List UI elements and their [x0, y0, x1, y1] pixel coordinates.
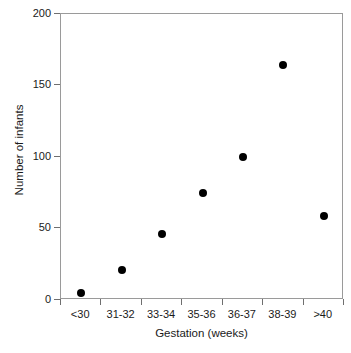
x-axis-tick-mark [141, 299, 142, 305]
x-axis-tick-label: 31-32 [107, 308, 135, 321]
y-axis-tick-label: 0 [45, 294, 51, 305]
data-point [158, 230, 166, 238]
plot-frame [60, 13, 343, 299]
plot-area [61, 14, 342, 298]
data-point [118, 266, 126, 274]
x-axis-tick-mark [60, 299, 61, 305]
x-axis-ticks [60, 299, 343, 307]
data-point [239, 153, 247, 161]
data-point [320, 212, 328, 220]
x-axis-title: Gestation (weeks) [60, 327, 343, 339]
x-axis-tick-mark [262, 299, 263, 305]
x-axis-tick-mark [343, 299, 344, 305]
x-axis-tick-mark [222, 299, 223, 305]
x-axis-tick-mark [181, 299, 182, 305]
data-point [77, 289, 85, 297]
x-axis-tick-mark [100, 299, 101, 305]
y-axis: 050100150200 [0, 0, 60, 353]
data-point [279, 61, 287, 69]
x-axis-tick-label: <30 [71, 308, 90, 321]
data-point [199, 189, 207, 197]
x-axis-tick-label: 33-34 [147, 308, 175, 321]
y-axis-tick-label: 50 [39, 222, 51, 233]
x-axis-tick-label: 36-37 [228, 308, 256, 321]
x-axis-tick-label: >40 [313, 308, 332, 321]
x-axis-tick-label: 35-36 [187, 308, 215, 321]
y-axis-tick-label: 150 [33, 79, 51, 90]
y-axis-tick-label: 200 [33, 8, 51, 19]
chart-figure: Number of infants 050100150200 <3031-323… [0, 0, 351, 353]
x-axis-tick-mark [303, 299, 304, 305]
y-axis-tick-label: 100 [33, 151, 51, 162]
x-axis-tick-label: 38-39 [268, 308, 296, 321]
x-axis-labels: <3031-3233-3435-3636-3738-39>40 [60, 308, 343, 322]
